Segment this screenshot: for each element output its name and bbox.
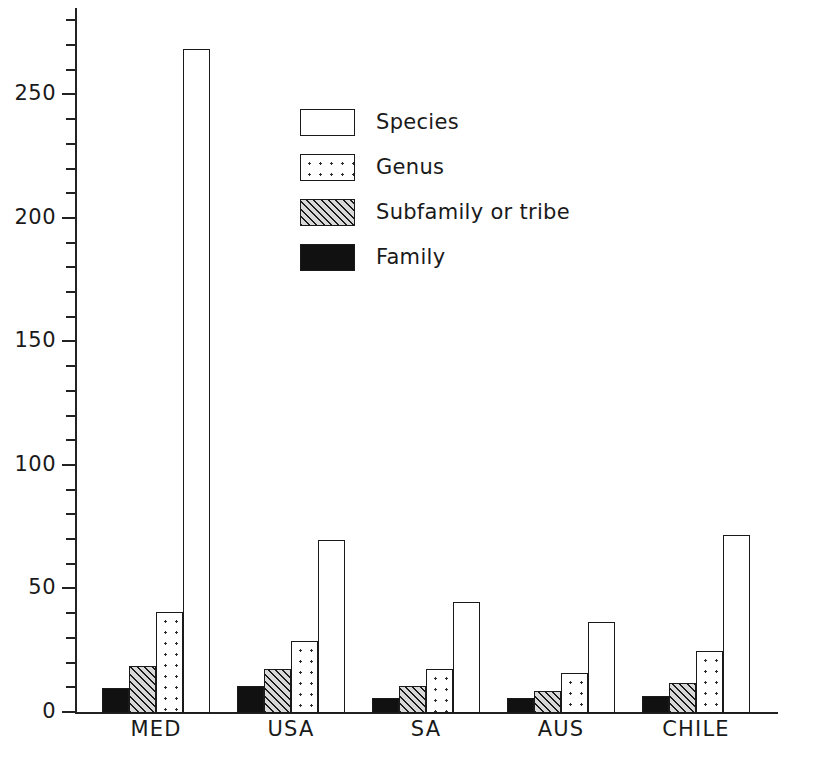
y-tick-label: 200: [14, 207, 56, 228]
y-tick-minor: [66, 44, 75, 46]
bar-usa-genus: [291, 641, 318, 713]
y-tick-major: [62, 587, 75, 589]
y-tick-minor: [66, 291, 75, 293]
legend-item-subfamily: Subfamily or tribe: [300, 190, 600, 235]
y-tick-major: [62, 93, 75, 95]
y-tick-label: 100: [14, 454, 56, 475]
y-tick-minor: [66, 612, 75, 614]
bar-chile-subfamily: [669, 683, 696, 713]
bar-sa-subfamily: [399, 686, 426, 713]
bar-sa-family: [372, 698, 399, 713]
y-tick-minor: [66, 390, 75, 392]
legend-label: Family: [376, 247, 445, 268]
x-label-chile: CHILE: [612, 719, 780, 740]
legend-label: Subfamily or tribe: [376, 202, 570, 223]
y-tick-major: [62, 711, 75, 713]
bar-med-subfamily: [129, 666, 156, 713]
y-tick-major: [62, 217, 75, 219]
legend-swatch-genus-icon: [300, 154, 355, 181]
y-tick-label: 250: [14, 83, 56, 104]
legend-item-genus: Genus: [300, 145, 600, 190]
bar-usa-species: [318, 540, 345, 713]
bar-group-med: [102, 8, 210, 713]
y-tick-minor: [66, 266, 75, 268]
bar-sa-species: [453, 602, 480, 713]
bar-aus-genus: [561, 673, 588, 713]
y-tick-minor: [66, 513, 75, 515]
bar-group-chile: [642, 8, 750, 713]
bar-chile-species: [723, 535, 750, 713]
y-tick-label: 50: [28, 577, 56, 598]
bar-aus-subfamily: [534, 691, 561, 713]
y-tick-minor: [66, 415, 75, 417]
y-tick-minor: [66, 118, 75, 120]
y-tick-major: [62, 340, 75, 342]
bar-chart: 250200150100500 MEDUSASAAUSCHILE Species…: [0, 0, 828, 757]
legend-label: Species: [376, 112, 459, 133]
bar-aus-species: [588, 622, 615, 713]
legend-item-family: Family: [300, 235, 600, 280]
y-tick-minor: [66, 143, 75, 145]
legend-swatch-subfamily-icon: [300, 199, 355, 226]
bar-usa-subfamily: [264, 669, 291, 713]
bar-aus-family: [507, 698, 534, 713]
bar-med-genus: [156, 612, 183, 713]
y-tick-minor: [66, 489, 75, 491]
y-tick-minor: [66, 192, 75, 194]
y-tick-minor: [66, 69, 75, 71]
y-tick-major: [62, 464, 75, 466]
y-tick-label: 0: [42, 701, 56, 722]
y-tick-minor: [66, 538, 75, 540]
legend-label: Genus: [376, 157, 444, 178]
bar-sa-genus: [426, 669, 453, 713]
bar-med-species: [183, 49, 210, 713]
y-tick-label: 150: [14, 330, 56, 351]
y-tick-minor: [66, 242, 75, 244]
bar-chile-genus: [696, 651, 723, 713]
bar-med-family: [102, 688, 129, 713]
y-tick-minor: [66, 439, 75, 441]
bar-chile-family: [642, 696, 669, 713]
bar-usa-family: [237, 686, 264, 713]
legend-swatch-species-icon: [300, 109, 355, 136]
y-tick-minor: [66, 637, 75, 639]
y-tick-minor: [66, 662, 75, 664]
legend-swatch-family-icon: [300, 244, 355, 271]
y-tick-minor: [66, 686, 75, 688]
y-tick-minor: [66, 168, 75, 170]
y-tick-minor: [66, 316, 75, 318]
y-tick-minor: [66, 365, 75, 367]
y-tick-minor: [66, 19, 75, 21]
legend-item-species: Species: [300, 100, 600, 145]
chart-legend: SpeciesGenusSubfamily or tribeFamily: [300, 100, 600, 280]
y-tick-minor: [66, 563, 75, 565]
